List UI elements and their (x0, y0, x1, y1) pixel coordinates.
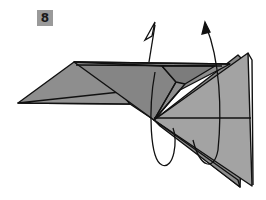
solid-arrowhead-icon (202, 22, 210, 34)
top-edge-inner (76, 65, 222, 66)
origami-diagram (0, 0, 266, 200)
